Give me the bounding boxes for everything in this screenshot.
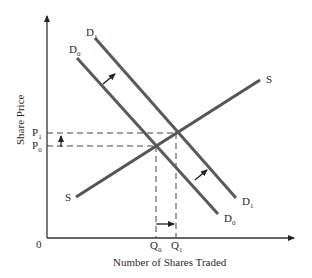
demand-curve-d0	[77, 58, 218, 214]
d1-upper-label: D1	[86, 26, 98, 41]
s-upper-label: S	[266, 73, 272, 85]
d1-lower-label: D1	[242, 195, 254, 210]
supply-curve	[76, 80, 260, 197]
q1-label: Q1	[171, 239, 183, 254]
demand-curve-d1	[95, 38, 236, 198]
x-axis-title: Number of Shares Traded	[113, 256, 227, 268]
supply-demand-diagram: D1 D0 D1 D0 S S P1 P0 Q0 Q1 0 Number of …	[0, 0, 312, 278]
d0-upper-label: D0	[69, 43, 81, 58]
origin-label: 0	[36, 238, 42, 250]
demand-shift-arrow-upper	[103, 74, 115, 84]
demand-shift-arrow-lower	[195, 170, 207, 180]
d0-lower-label: D0	[224, 212, 236, 227]
s-lower-label: S	[65, 191, 71, 203]
p0-label: P0	[32, 139, 42, 154]
q0-label: Q0	[150, 239, 162, 254]
y-axis-title: Share Price	[14, 94, 26, 145]
